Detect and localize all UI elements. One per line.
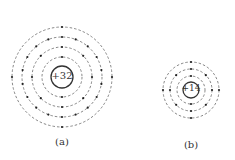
electron-dot bbox=[61, 46, 63, 48]
electron-dot bbox=[26, 96, 28, 98]
electron-dot bbox=[91, 76, 93, 78]
electron-dot bbox=[47, 113, 49, 115]
electron-dot bbox=[87, 107, 89, 109]
electron-dot bbox=[190, 61, 192, 63]
electron-dot bbox=[96, 96, 98, 98]
electron-dot bbox=[190, 117, 192, 119]
atom-a-caption: (a) bbox=[50, 136, 74, 147]
electron-dot bbox=[169, 89, 171, 91]
electron-dot bbox=[190, 75, 192, 77]
electron-dot bbox=[22, 83, 24, 85]
electron-dot bbox=[82, 97, 84, 99]
electron-dot bbox=[61, 116, 63, 118]
atom-b-nucleus-label: +14 bbox=[180, 83, 202, 93]
electron-dot bbox=[162, 89, 164, 91]
electron-dot bbox=[61, 36, 63, 38]
electron-dot bbox=[75, 38, 77, 40]
electron-dot bbox=[61, 126, 63, 128]
electron-dot bbox=[22, 69, 24, 71]
electron-dot bbox=[100, 83, 102, 85]
electron-dot bbox=[61, 106, 63, 108]
electron-dot bbox=[205, 74, 207, 76]
electron-dot bbox=[190, 110, 192, 112]
electron-dot bbox=[205, 104, 207, 106]
electron-dot bbox=[175, 74, 177, 76]
electron-dot bbox=[47, 38, 49, 40]
electron-dot bbox=[31, 76, 33, 78]
electron-dot bbox=[175, 104, 177, 106]
atomic-diagram-canvas bbox=[0, 0, 235, 160]
electron-dot bbox=[100, 69, 102, 71]
electron-dot bbox=[61, 26, 63, 28]
electron-dot bbox=[211, 89, 213, 91]
electron-dot bbox=[190, 68, 192, 70]
electron-dot bbox=[75, 113, 77, 115]
electron-dot bbox=[35, 45, 37, 47]
atom-b-caption: (b) bbox=[179, 139, 203, 150]
electron-dot bbox=[87, 45, 89, 47]
electron-dot bbox=[40, 55, 42, 57]
electron-dot bbox=[96, 56, 98, 58]
electron-dot bbox=[218, 89, 220, 91]
electron-dot bbox=[11, 76, 13, 78]
electron-dot bbox=[35, 107, 37, 109]
electron-dot bbox=[190, 103, 192, 105]
electron-dot bbox=[61, 56, 63, 58]
electron-dot bbox=[61, 96, 63, 98]
atom-a-nucleus-label: +32 bbox=[51, 70, 73, 81]
electron-dot bbox=[82, 55, 84, 57]
electron-dot bbox=[111, 76, 113, 78]
electron-dot bbox=[26, 56, 28, 58]
electron-dot bbox=[40, 97, 42, 99]
